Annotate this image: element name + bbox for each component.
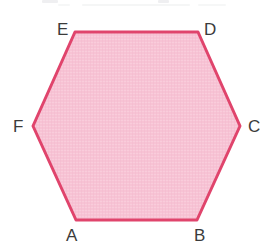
- sliver-mark: [42, 0, 58, 3]
- cropped-text-sliver: [0, 0, 277, 7]
- vertex-label-b: B: [194, 227, 206, 244]
- hexagon-shape: [33, 32, 240, 220]
- sliver-mark: [198, 4, 226, 6]
- sliver-mark: [58, 4, 70, 6]
- sliver-mark: [158, 0, 169, 3]
- vertex-label-f: F: [13, 118, 24, 135]
- vertex-label-e: E: [57, 21, 69, 38]
- vertex-label-d: D: [204, 21, 216, 38]
- vertex-label-c: C: [248, 118, 260, 135]
- vertex-label-a: A: [66, 227, 78, 244]
- hexagon-figure: [0, 0, 277, 251]
- sliver-mark: [82, 4, 190, 6]
